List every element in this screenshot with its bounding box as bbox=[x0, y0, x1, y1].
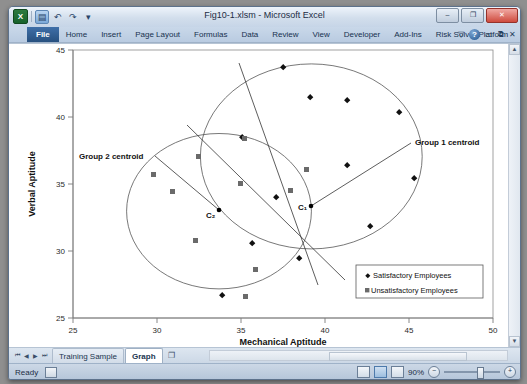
ribbon-tab-bar: File Home Insert Page Layout Formulas Da… bbox=[9, 27, 520, 43]
worksheet-area: 25 30 35 40 45 25 30 bbox=[9, 43, 520, 347]
zoom-slider[interactable] bbox=[444, 367, 500, 377]
tab-insert[interactable]: Insert bbox=[94, 27, 128, 42]
group-2-centroid-label: Group 2 centroid bbox=[79, 152, 144, 161]
ribbon-right-icons: ▽ ? ▭ ⧉ ✕ bbox=[458, 29, 516, 40]
tab-formulas[interactable]: Formulas bbox=[187, 27, 234, 42]
zoom-slider-thumb[interactable] bbox=[477, 367, 484, 379]
data-point bbox=[243, 294, 248, 299]
zoom-level-label[interactable]: 90% bbox=[408, 368, 424, 377]
data-point bbox=[304, 167, 309, 172]
zoom-slider-track bbox=[444, 371, 500, 373]
ribbon-tabs: File Home Insert Page Layout Formulas Da… bbox=[9, 27, 520, 42]
y-tick-45: 45 bbox=[56, 46, 65, 55]
zoom-in-button[interactable]: + bbox=[504, 366, 516, 378]
minimize-button[interactable]: – bbox=[436, 8, 459, 23]
restore-button[interactable]: ❐ bbox=[461, 8, 484, 23]
data-point bbox=[238, 181, 243, 186]
tab-page-layout[interactable]: Page Layout bbox=[128, 27, 187, 42]
tab-data[interactable]: Data bbox=[234, 27, 265, 42]
x-axis-tick-labels: 25 30 35 40 45 50 bbox=[69, 326, 498, 335]
close-button[interactable]: ✕ bbox=[486, 8, 518, 23]
y-axis-title: Verbal Aptitude bbox=[27, 151, 37, 217]
scroll-down-icon[interactable]: ▼ bbox=[509, 336, 520, 347]
chart-svg: 25 30 35 40 45 25 30 bbox=[9, 44, 509, 347]
window-controls: – ❐ ✕ bbox=[436, 8, 518, 23]
chart-legend[interactable]: Satisfactory Employees Unsatisfactory Em… bbox=[356, 265, 483, 298]
title-bar: X ▤ ↶ ↷ ▾ Fig10-1.xlsm - Microsoft Excel… bbox=[9, 7, 520, 27]
sheet-tab-strip: ⏮ ◀ ▶ ⏭ Training Sample Graph ❐ bbox=[9, 347, 520, 363]
x-tick-45: 45 bbox=[405, 326, 414, 335]
x-tick-25: 25 bbox=[69, 326, 78, 335]
scroll-up-icon[interactable]: ▲ bbox=[509, 44, 520, 55]
x-tick-30: 30 bbox=[153, 326, 162, 335]
vertical-scrollbar[interactable]: ▲ ▼ bbox=[508, 44, 520, 347]
y-tick-35: 35 bbox=[56, 180, 65, 189]
x-axis-ticks bbox=[73, 318, 493, 323]
legend-label-satisfactory: Satisfactory Employees bbox=[373, 271, 452, 280]
data-point bbox=[193, 238, 198, 243]
centroid-1-marker bbox=[309, 204, 314, 209]
centroid-2-label: C₂ bbox=[206, 211, 216, 220]
sheet-tab-training-sample[interactable]: Training Sample bbox=[52, 348, 124, 363]
centroid-1-label: C₁ bbox=[298, 203, 308, 212]
insert-worksheet-icon[interactable]: ❐ bbox=[164, 351, 179, 360]
data-point bbox=[151, 172, 156, 177]
data-point bbox=[196, 154, 201, 159]
y-tick-25: 25 bbox=[56, 314, 65, 323]
close-window-icon[interactable]: ✕ bbox=[509, 30, 516, 39]
ribbon-options-icon[interactable]: ▽ bbox=[458, 30, 464, 39]
status-text: Ready bbox=[9, 368, 38, 377]
y-axis-ticks bbox=[68, 50, 73, 318]
status-bar: Ready 90% − + bbox=[9, 363, 520, 380]
minimize-ribbon-icon[interactable]: ▭ bbox=[485, 30, 493, 39]
normal-view-button[interactable] bbox=[357, 366, 370, 378]
legend-marker-unsatisfactory bbox=[365, 288, 369, 292]
x-axis-title: Mechanical Aptitude bbox=[239, 337, 326, 347]
tab-review[interactable]: Review bbox=[265, 27, 305, 42]
y-tick-30: 30 bbox=[56, 247, 65, 256]
tab-file[interactable]: File bbox=[27, 27, 59, 42]
y-tick-40: 40 bbox=[56, 113, 65, 122]
scatter-chart[interactable]: 25 30 35 40 45 25 30 bbox=[9, 44, 509, 347]
x-tick-35: 35 bbox=[237, 326, 246, 335]
y-axis-tick-labels: 25 30 35 40 45 bbox=[56, 46, 65, 323]
legend-label-unsatisfactory: Unsatisfactory Employees bbox=[371, 286, 458, 295]
data-point bbox=[253, 267, 258, 272]
tab-view[interactable]: View bbox=[306, 27, 337, 42]
x-tick-40: 40 bbox=[321, 326, 330, 335]
record-macro-icon[interactable] bbox=[45, 367, 57, 378]
horizontal-scrollbar[interactable] bbox=[209, 350, 508, 361]
horizontal-scrollbar-thumb[interactable] bbox=[329, 352, 468, 361]
sheet-tab-graph[interactable]: Graph bbox=[125, 348, 163, 363]
group-1-centroid-label: Group 1 centroid bbox=[415, 138, 480, 147]
zoom-out-button[interactable]: − bbox=[428, 366, 440, 378]
page-layout-view-button[interactable] bbox=[374, 366, 387, 378]
tab-home[interactable]: Home bbox=[59, 27, 94, 42]
data-point bbox=[170, 189, 175, 194]
next-sheet-icon[interactable]: ▶ bbox=[31, 352, 39, 359]
excel-window: X ▤ ↶ ↷ ▾ Fig10-1.xlsm - Microsoft Excel… bbox=[8, 6, 521, 380]
tab-add-ins[interactable]: Add-Ins bbox=[387, 27, 429, 42]
data-point bbox=[288, 188, 293, 193]
help-icon[interactable]: ? bbox=[469, 29, 480, 40]
centroid-2-marker bbox=[217, 208, 222, 213]
first-sheet-icon[interactable]: ⏮ bbox=[13, 352, 21, 359]
restore-window-icon[interactable]: ⧉ bbox=[498, 30, 504, 40]
tab-developer[interactable]: Developer bbox=[337, 27, 387, 42]
x-tick-50: 50 bbox=[489, 326, 498, 335]
sheet-nav-buttons: ⏮ ◀ ▶ ⏭ bbox=[9, 352, 52, 359]
zoom-controls: 90% − + bbox=[357, 366, 516, 378]
last-sheet-icon[interactable]: ⏭ bbox=[40, 352, 48, 359]
prev-sheet-icon[interactable]: ◀ bbox=[22, 352, 30, 359]
page-break-view-button[interactable] bbox=[391, 366, 404, 378]
data-point bbox=[242, 136, 247, 141]
